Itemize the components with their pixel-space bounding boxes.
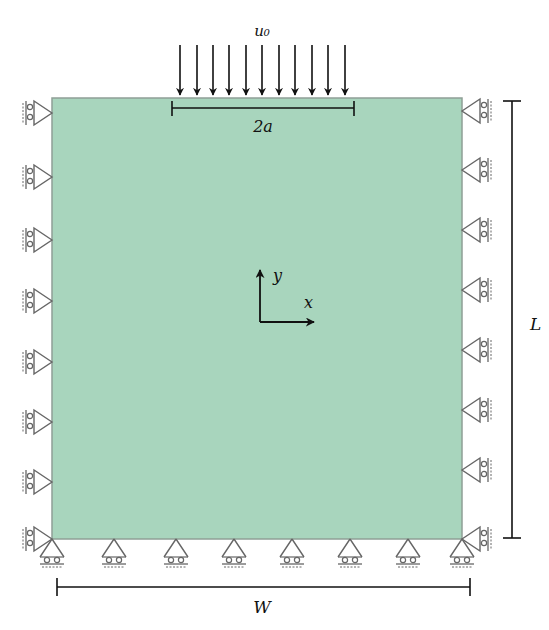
load-width-label: 2a [252,117,273,136]
domain-rectangle [52,98,462,539]
y-axis-label: y [272,266,283,285]
load-label: u₀ [254,22,270,40]
load-arrows [180,45,345,95]
left-roller-supports [23,101,52,551]
height-label: L [529,314,541,334]
height-dimension [503,101,521,538]
width-label: W [253,597,272,617]
diagram-canvas: u₀ 2a [0,0,549,630]
bottom-roller-supports [40,539,474,567]
right-roller-supports [462,99,491,551]
x-axis-label: x [304,293,313,312]
width-dimension [57,578,470,596]
